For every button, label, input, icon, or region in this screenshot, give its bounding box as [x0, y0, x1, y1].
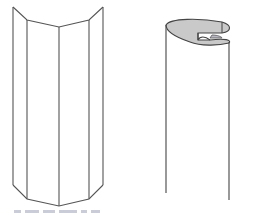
- figure-canvas: [0, 0, 253, 215]
- right-rolled-cylinder: [166, 19, 230, 200]
- left-folded-prism: [13, 7, 103, 206]
- caption-clipped: [14, 210, 144, 215]
